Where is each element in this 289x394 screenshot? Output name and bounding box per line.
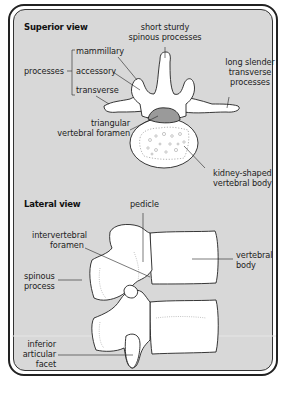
superior-articular-process <box>124 285 138 298</box>
lateral-vertebrae <box>90 224 218 368</box>
label-vertebral-body-1: vertebral <box>236 250 272 260</box>
label-foramen-1: triangular <box>40 118 130 128</box>
label-facet-2: articular <box>10 349 56 359</box>
label-vertebral-body-2: body <box>236 260 256 270</box>
superior-view-heading: Superior view <box>24 22 88 32</box>
label-processes: processes <box>24 66 64 76</box>
label-facet-1: inferior <box>10 339 56 349</box>
label-spinous-lateral-1: spinous <box>24 271 55 281</box>
lower-vertebral-body <box>150 300 218 354</box>
label-long-transverse-1: long slender <box>222 57 278 67</box>
label-kidney-body-2: vertebral body <box>213 178 272 188</box>
label-foramen-2: vertebral foramen <box>40 128 130 138</box>
label-spinous-superior-1: short sturdy <box>126 22 204 32</box>
label-long-transverse-3: processes <box>222 77 278 87</box>
label-transverse: transverse <box>76 85 119 95</box>
vertebral-body <box>130 118 198 168</box>
upper-vertebral-body <box>150 231 218 284</box>
lower-spinous-process <box>92 290 150 368</box>
label-pedicle: pedicle <box>130 199 159 209</box>
label-kidney-body-1: kidney-shaped <box>213 168 272 178</box>
lateral-view-heading: Lateral view <box>24 199 80 209</box>
label-facet-3: facet <box>10 359 56 369</box>
label-spinous-superior-2: spinous processes <box>126 32 204 42</box>
label-long-transverse-2: transverse <box>222 67 278 77</box>
upper-spinous-process <box>90 224 152 300</box>
superior-vertebra <box>104 52 239 168</box>
label-mammillary: mammillary <box>76 46 124 56</box>
label-iv-foramen-2: foramen <box>50 240 84 250</box>
label-iv-foramen-1: intervertebral <box>32 230 87 240</box>
label-spinous-lateral-2: process <box>24 281 55 291</box>
label-accessory: accessory <box>76 66 116 76</box>
